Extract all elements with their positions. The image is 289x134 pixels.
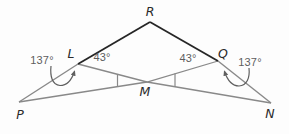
vertex-label-M: M xyxy=(140,84,151,99)
geometry-diagram: R L Q M P N 137° 43° 43° 137° xyxy=(0,0,289,134)
angle-label-43-right: 43° xyxy=(179,52,196,64)
segment-P-M-Q xyxy=(19,61,218,102)
angle-label-137-right: 137° xyxy=(238,56,262,68)
segment-P-L xyxy=(19,64,78,102)
vertex-label-L: L xyxy=(68,46,75,61)
angle-label-137-left: 137° xyxy=(30,54,54,66)
angle-arrow-right xyxy=(225,68,250,86)
vertex-label-Q: Q xyxy=(218,46,228,61)
segment-L-R xyxy=(78,22,150,64)
geometry-diagram-svg: R L Q M P N 137° 43° 43° 137° xyxy=(0,0,289,134)
vertex-label-R: R xyxy=(146,4,155,19)
angle-label-43-left: 43° xyxy=(93,51,110,63)
vertex-label-P: P xyxy=(16,107,24,122)
vertex-label-N: N xyxy=(265,106,275,121)
